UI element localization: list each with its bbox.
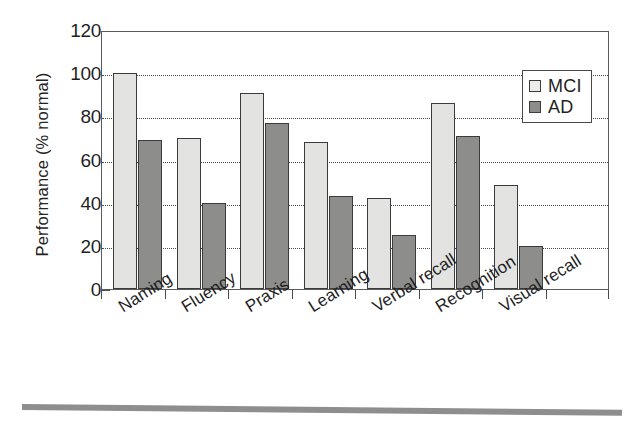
chart-legend: MCIAD <box>522 70 592 123</box>
x-tick-mark-8 <box>608 290 609 299</box>
bar-chart-figure: Performance (% normal) 020406080100120 N… <box>0 0 635 426</box>
legend-swatch-mci <box>529 80 541 92</box>
bar-ad-praxis <box>265 123 289 289</box>
y-axis-tick-group: 020406080100120 <box>28 31 101 290</box>
bar-mci-learning <box>304 142 328 289</box>
x-tick-mark-0 <box>101 290 102 299</box>
x-axis-label-group: NamingFluencyPraxisLearningVerbal recall… <box>101 300 621 390</box>
legend-item-mci: MCI <box>529 75 582 96</box>
page-divider-rule <box>22 404 622 416</box>
legend-swatch-ad <box>529 101 541 113</box>
legend-item-ad: AD <box>529 96 582 117</box>
y-tick-label-120: 120 <box>47 20 101 42</box>
y-tick-label-20: 20 <box>47 236 101 258</box>
y-tick-label-0: 0 <box>47 279 101 301</box>
y-tick-label-100: 100 <box>47 63 101 85</box>
bar-mci-praxis <box>240 93 264 289</box>
y-tick-label-80: 80 <box>47 106 101 128</box>
legend-label-ad: AD <box>548 98 573 116</box>
bar-mci-verbal-recall <box>367 198 391 289</box>
bar-mci-naming <box>113 73 137 289</box>
legend-label-mci: MCI <box>548 77 582 95</box>
bar-ad-naming <box>138 140 162 289</box>
y-tick-label-60: 60 <box>47 150 101 172</box>
bar-mci-fluency <box>177 138 201 289</box>
y-tick-label-40: 40 <box>47 193 101 215</box>
